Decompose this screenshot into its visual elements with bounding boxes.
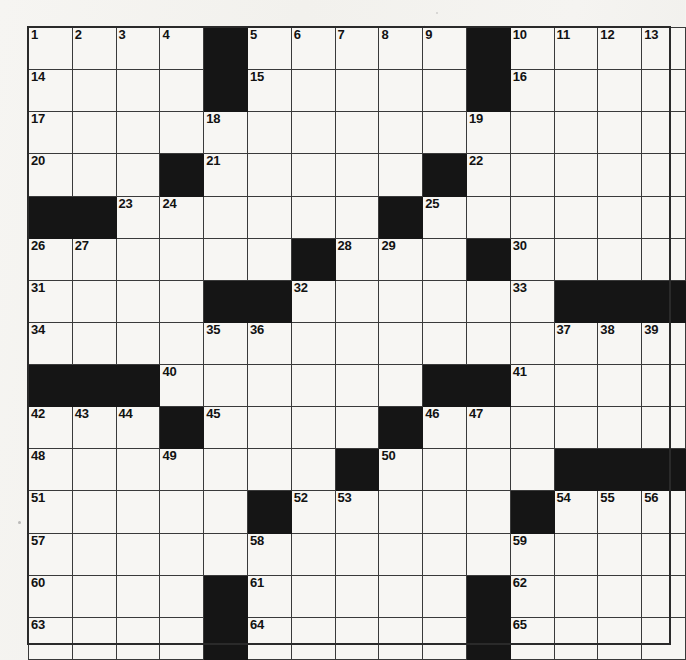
crossword-cell[interactable] [598,238,642,280]
crossword-cell[interactable] [554,365,598,407]
crossword-cell[interactable] [160,322,204,364]
crossword-cell[interactable] [204,491,248,533]
crossword-cell[interactable] [72,322,116,364]
crossword-cell[interactable]: 58 [247,533,291,575]
crossword-cell[interactable]: 45 [204,407,248,449]
crossword-cell[interactable]: 39 [642,322,686,364]
crossword-cell[interactable] [510,449,554,491]
crossword-cell[interactable] [598,533,642,575]
crossword-cell[interactable] [291,575,335,617]
crossword-cell[interactable] [72,617,116,659]
crossword-cell[interactable] [72,70,116,112]
crossword-cell[interactable] [379,617,423,659]
crossword-cell[interactable]: 65 [510,617,554,659]
crossword-cell[interactable] [160,533,204,575]
crossword-cell[interactable]: 24 [160,196,204,238]
crossword-cell[interactable] [466,196,510,238]
crossword-cell[interactable] [160,70,204,112]
crossword-cell[interactable] [160,575,204,617]
crossword-cell[interactable] [247,154,291,196]
crossword-cell[interactable] [335,617,379,659]
crossword-cell[interactable] [510,407,554,449]
crossword-cell[interactable] [598,407,642,449]
crossword-cell[interactable] [291,154,335,196]
crossword-cell[interactable] [642,196,686,238]
crossword-cell[interactable]: 32 [291,280,335,322]
crossword-cell[interactable] [423,322,467,364]
crossword-cell[interactable] [466,280,510,322]
crossword-cell[interactable] [116,70,160,112]
crossword-cell[interactable] [598,154,642,196]
crossword-cell[interactable] [247,365,291,407]
crossword-cell[interactable]: 42 [29,407,73,449]
crossword-cell[interactable] [116,533,160,575]
crossword-cell[interactable]: 53 [335,491,379,533]
crossword-cell[interactable] [642,154,686,196]
crossword-cell[interactable] [642,575,686,617]
crossword-cell[interactable]: 40 [160,365,204,407]
crossword-cell[interactable] [466,491,510,533]
crossword-cell[interactable] [116,280,160,322]
crossword-cell[interactable] [72,491,116,533]
crossword-cell[interactable] [642,533,686,575]
crossword-cell[interactable] [204,449,248,491]
crossword-cell[interactable] [598,70,642,112]
crossword-cell[interactable] [291,365,335,407]
crossword-cell[interactable] [554,407,598,449]
crossword-cell[interactable] [335,322,379,364]
crossword-cell[interactable] [291,322,335,364]
crossword-cell[interactable] [642,238,686,280]
crossword-cell[interactable] [247,238,291,280]
crossword-cell[interactable]: 3 [116,28,160,70]
crossword-cell[interactable]: 41 [510,365,554,407]
crossword-cell[interactable] [204,365,248,407]
crossword-cell[interactable] [642,617,686,659]
crossword-cell[interactable] [423,575,467,617]
crossword-cell[interactable] [247,407,291,449]
crossword-cell[interactable] [423,617,467,659]
crossword-cell[interactable] [160,280,204,322]
crossword-cell[interactable] [291,407,335,449]
crossword-cell[interactable]: 21 [204,154,248,196]
crossword-cell[interactable] [291,112,335,154]
crossword-cell[interactable]: 15 [247,70,291,112]
crossword-cell[interactable] [466,533,510,575]
crossword-cell[interactable] [291,70,335,112]
crossword-cell[interactable]: 11 [554,28,598,70]
crossword-cell[interactable] [423,70,467,112]
crossword-cell[interactable]: 52 [291,491,335,533]
crossword-cell[interactable]: 46 [423,407,467,449]
crossword-cell[interactable]: 43 [72,407,116,449]
crossword-cell[interactable] [335,112,379,154]
crossword-cell[interactable] [335,533,379,575]
crossword-cell[interactable] [204,238,248,280]
crossword-cell[interactable] [598,196,642,238]
crossword-cell[interactable]: 14 [29,70,73,112]
crossword-cell[interactable] [554,238,598,280]
crossword-cell[interactable]: 27 [72,238,116,280]
crossword-cell[interactable] [554,617,598,659]
crossword-cell[interactable] [116,238,160,280]
crossword-cell[interactable] [72,154,116,196]
crossword-cell[interactable] [510,112,554,154]
crossword-cell[interactable] [379,365,423,407]
crossword-cell[interactable]: 60 [29,575,73,617]
crossword-cell[interactable]: 19 [466,112,510,154]
crossword-cell[interactable] [160,491,204,533]
crossword-cell[interactable]: 44 [116,407,160,449]
crossword-cell[interactable] [72,112,116,154]
crossword-cell[interactable]: 6 [291,28,335,70]
crossword-cell[interactable]: 64 [247,617,291,659]
crossword-cell[interactable] [379,154,423,196]
crossword-cell[interactable]: 61 [247,575,291,617]
crossword-cell[interactable] [379,533,423,575]
crossword-cell[interactable] [554,533,598,575]
crossword-cell[interactable] [116,575,160,617]
crossword-cell[interactable] [642,70,686,112]
crossword-cell[interactable]: 50 [379,449,423,491]
crossword-cell[interactable] [423,280,467,322]
crossword-cell[interactable] [116,154,160,196]
crossword-cell[interactable] [466,449,510,491]
crossword-cell[interactable]: 17 [29,112,73,154]
crossword-cell[interactable]: 55 [598,491,642,533]
